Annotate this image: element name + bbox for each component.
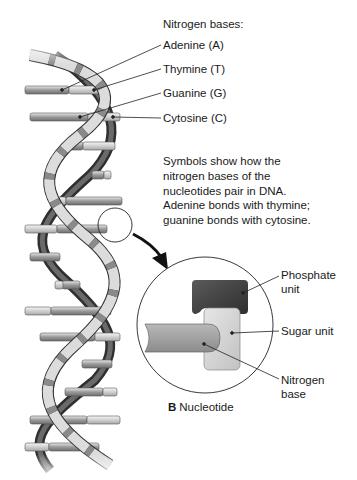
description-paragraph: Symbols show how the nitrogen bases of t… — [163, 154, 353, 228]
label-line: Nitrogen — [281, 373, 324, 387]
description-line: Adenine bonds with thymine; — [163, 198, 353, 213]
description-line: nitrogen bases of the — [163, 169, 353, 184]
description-line: nucleotides pair in DNA. — [163, 184, 353, 199]
legend-thymine: Thymine (T) — [163, 62, 225, 76]
figure-caption: BNucleotide — [168, 401, 234, 413]
label-sugar-unit: Sugar unit — [281, 324, 333, 338]
legend-cytosine: Cytosine (C) — [163, 111, 227, 125]
caption-text: Nucleotide — [179, 401, 233, 413]
label-line: Phosphate — [281, 268, 336, 282]
description-line: Symbols show how the — [163, 154, 353, 169]
base-shape — [145, 324, 220, 352]
label-nitrogen-base: Nitrogen base — [281, 373, 324, 401]
label-line: base — [281, 387, 324, 401]
legend-adenine: Adenine (A) — [163, 38, 224, 52]
label-line: unit — [281, 282, 336, 296]
label-phosphate-unit: Phosphate unit — [281, 268, 336, 296]
legend-title: Nitrogen bases: — [163, 17, 244, 31]
caption-letter: B — [168, 401, 176, 413]
description-line: guanine bonds with cytosine. — [163, 213, 353, 228]
legend-guanine: Guanine (G) — [163, 86, 226, 100]
